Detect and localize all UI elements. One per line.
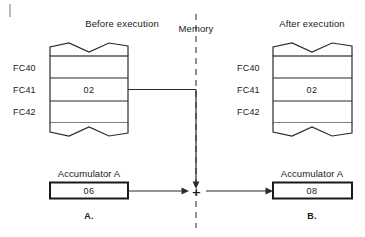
torn-edge-bottom <box>50 123 128 136</box>
address-label-fc41-after: FC41 <box>237 86 260 95</box>
connector-adder-to-result <box>206 188 273 195</box>
arrowhead-right <box>182 188 190 195</box>
address-label-fc40-after: FC40 <box>237 64 260 73</box>
connector-memory-to-adder <box>128 90 199 190</box>
memory-cell-value-fc41-after: 02 <box>307 86 318 95</box>
adder-plus-symbol: + <box>192 184 201 199</box>
accumulator-after-caption: Accumulator A <box>281 169 344 179</box>
address-label-fc42-after: FC42 <box>237 108 260 117</box>
accumulator-after-value: 08 <box>307 187 318 196</box>
connector-accumulator-to-adder <box>128 188 189 195</box>
torn-edge-bottom <box>273 123 352 136</box>
address-label-fc40-before: FC40 <box>13 64 36 73</box>
heading-before-execution: Before execution <box>85 19 159 29</box>
accumulator-before-caption: Accumulator A <box>58 169 121 179</box>
accumulator-before-value: 06 <box>84 187 95 196</box>
memory-divider-label: Memory <box>179 24 214 34</box>
heading-after-execution: After execution <box>279 19 345 29</box>
figure-caption-b: B. <box>307 212 316 221</box>
address-label-fc42-before: FC42 <box>13 108 36 117</box>
arrowhead-right <box>266 188 274 195</box>
figure-caption-a: A. <box>84 212 93 221</box>
torn-edge-top <box>50 43 128 56</box>
address-label-fc41-before: FC41 <box>13 86 36 95</box>
diagram-page: Before execution After execution Memory … <box>0 0 365 237</box>
memory-cell-value-fc41-before: 02 <box>84 86 95 95</box>
torn-edge-top <box>273 43 352 56</box>
diagram-canvas <box>0 0 365 237</box>
